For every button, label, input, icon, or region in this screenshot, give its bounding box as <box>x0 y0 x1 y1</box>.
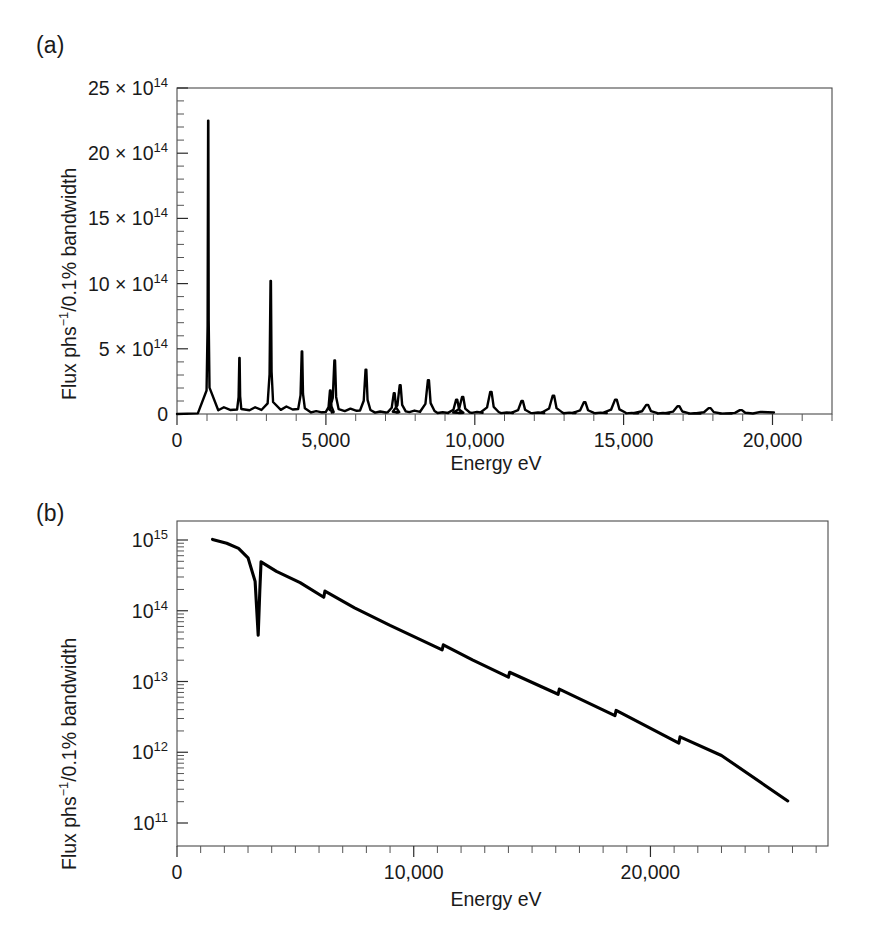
panel-b-ytick-12: 1012 <box>132 739 168 763</box>
panel-a-xtick-0: 0 <box>172 429 183 451</box>
panel-b-x-tick-labels: 0 10,000 20,000 <box>172 861 681 883</box>
panel-b-y-minor-ticks <box>177 543 184 801</box>
panel-b-xtick-10000: 10,000 <box>384 861 444 883</box>
panel-a-y-tick-labels: 0 5 × 1014 10 × 1014 15 × 1014 20 × 1014… <box>88 75 168 425</box>
panel-b-xtick-20000: 20,000 <box>621 861 681 883</box>
figure-container: (a) Flux phs−1/0.1% bandwidth Energy eV <box>0 0 874 940</box>
panel-a: (a) Flux phs−1/0.1% bandwidth Energy eV <box>0 0 874 470</box>
panel-a-ytick-25: 25 × 1014 <box>88 75 168 99</box>
panel-a-y-minor-ticks <box>177 101 184 401</box>
panel-a-xtick-10000: 10,000 <box>445 429 505 451</box>
panel-b-ytick-15: 1015 <box>132 527 168 551</box>
panel-a-ytick-10: 10 × 1014 <box>88 271 168 295</box>
panel-a-xtick-5000: 5,000 <box>301 429 350 451</box>
panel-b-xtick-0: 0 <box>172 861 183 883</box>
panel-b-ytick-13: 1013 <box>132 669 168 693</box>
panel-a-spectrum-curve <box>177 121 774 414</box>
panel-b-plot: 1011 1012 1013 1014 1015 0 10,000 20,000 <box>0 470 874 940</box>
panel-b: (b) Flux phs−1/0.1% bandwidth Energy eV … <box>0 470 874 940</box>
panel-a-x-minor-ticks <box>207 414 832 421</box>
panel-a-y-major-ticks <box>177 88 188 414</box>
panel-b-ytick-14: 1014 <box>132 598 168 622</box>
panel-b-y-tick-labels: 1011 1012 1013 1014 1015 <box>132 527 168 834</box>
panel-a-x-tick-labels: 0 5,000 10,000 15,000 20,000 <box>172 429 803 451</box>
panel-a-xtick-15000: 15,000 <box>594 429 654 451</box>
panel-b-ytick-11: 1011 <box>133 810 168 834</box>
panel-b-x-ticks <box>177 846 816 857</box>
panel-a-plot: 0 5 × 1014 10 × 1014 15 × 1014 20 × 1014… <box>0 0 874 470</box>
panel-b-flux-curve <box>213 539 788 801</box>
panel-a-ytick-20: 20 × 1014 <box>88 140 168 164</box>
panel-a-ytick-0: 0 <box>157 403 168 425</box>
panel-a-plot-frame <box>177 88 832 414</box>
panel-a-ytick-5: 5 × 1014 <box>99 336 168 360</box>
panel-a-ytick-15: 15 × 1014 <box>88 205 168 229</box>
panel-a-xtick-20000: 20,000 <box>743 429 803 451</box>
